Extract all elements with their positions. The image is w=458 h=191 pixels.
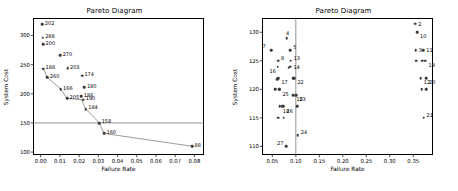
data-point: [292, 77, 295, 80]
data-point: [277, 60, 280, 63]
data-point: [191, 145, 194, 148]
y-axis-title-left: System Cost: [3, 68, 9, 104]
plot-area-left: [33, 18, 204, 155]
data-point-label: 200: [46, 40, 56, 46]
y-tick-label: 250: [15, 62, 30, 68]
y-tick-label: 125: [244, 58, 259, 64]
x-tick-label: 0.05: [131, 158, 143, 164]
data-point: [103, 132, 106, 135]
data-point-label: 10: [420, 33, 426, 39]
data-point: [296, 134, 299, 137]
data-point: [295, 94, 298, 97]
x-axis-title-left: Failure Rate: [101, 166, 135, 172]
x-tick-label: 0.01: [54, 158, 66, 164]
y-tick-label: 200: [15, 91, 30, 97]
data-point: [422, 49, 425, 52]
data-point: [270, 49, 273, 52]
data-point: [277, 117, 280, 120]
data-point-label: 160: [106, 129, 116, 135]
chart-title-right: Pareto Diagram: [229, 7, 458, 15]
x-tick-label: 0.00: [35, 158, 47, 164]
x-tick-label: 0.15: [313, 158, 325, 164]
data-point: [66, 67, 69, 70]
data-point-label: 174: [84, 71, 94, 77]
data-point: [422, 117, 425, 120]
data-point-label: 8: [281, 55, 284, 61]
y-axis-title-right: System Cost: [232, 68, 238, 104]
data-point: [416, 31, 419, 34]
data-point-label: 5: [293, 44, 296, 50]
data-point-label: 23: [299, 96, 305, 102]
data-point: [425, 88, 428, 91]
x-tick-label: 0.06: [150, 158, 162, 164]
data-point: [85, 108, 88, 111]
data-point: [42, 37, 45, 40]
data-point: [83, 86, 86, 89]
data-point: [81, 74, 84, 77]
x-tick-label: 0.04: [112, 158, 124, 164]
data-point: [414, 22, 417, 25]
data-point: [279, 88, 282, 91]
x-tick-label: 0.07: [169, 158, 181, 164]
data-point-label: 205: [70, 94, 80, 100]
data-point: [80, 95, 83, 98]
data-point: [59, 88, 62, 91]
x-tick-label: 0.05: [266, 158, 278, 164]
x-tick-label: 0.03: [92, 158, 104, 164]
y-tick-label: 120: [244, 86, 259, 92]
data-point: [82, 98, 85, 101]
x-tick-label: 0.08: [188, 158, 200, 164]
data-point: [41, 23, 44, 26]
data-point-label: 2: [418, 21, 421, 27]
data-point-label: 26: [287, 108, 293, 114]
data-point-label: 190: [86, 95, 96, 101]
y-tick-label: 115: [244, 115, 259, 121]
data-point-label: 88: [194, 142, 200, 148]
data-point: [282, 117, 285, 120]
y-tick-label: 300: [15, 32, 30, 38]
data-point-label: 180: [87, 83, 97, 89]
data-point-label: 17: [281, 79, 287, 85]
data-point: [276, 78, 279, 81]
data-point: [66, 97, 69, 100]
data-point: [59, 54, 62, 57]
x-tick-label: 0.02: [73, 158, 85, 164]
data-point-label: 188: [46, 64, 56, 70]
y-tick-label: 130: [244, 29, 259, 35]
data-point: [274, 88, 277, 91]
data-point-label: 202: [45, 20, 55, 26]
data-point-label: 13: [294, 55, 300, 61]
data-point-label: 25: [282, 91, 288, 97]
data-point-label: 260: [50, 73, 60, 79]
y-tick-label: 110: [244, 143, 259, 149]
data-point: [276, 65, 279, 68]
data-point: [289, 49, 292, 52]
y-tick-label: 100: [15, 149, 30, 155]
data-point: [414, 49, 417, 52]
data-point: [425, 77, 428, 80]
data-point: [420, 88, 423, 91]
data-point-label: 27: [277, 140, 283, 146]
data-point: [415, 60, 418, 63]
data-point: [286, 37, 289, 40]
chart-panel-left: Pareto Diagram 0.000.010.020.030.040.050…: [0, 0, 229, 191]
data-point: [421, 60, 424, 63]
data-point-label: 21: [427, 112, 433, 118]
x-tick-label: 0.30: [384, 158, 396, 164]
data-point-label: 166: [63, 85, 73, 91]
data-point: [98, 122, 101, 125]
data-point: [289, 60, 292, 63]
chart-title-left: Pareto Diagram: [0, 7, 229, 15]
data-point: [424, 60, 427, 63]
data-point-label: 22: [297, 79, 303, 85]
data-point-label: 270: [63, 51, 73, 57]
data-point: [296, 105, 299, 108]
x-axis-title-right: Failure Rate: [330, 166, 364, 172]
data-point-label: 184: [88, 104, 98, 110]
chart-panel-right: Pareto Diagram 0.050.100.150.200.250.300…: [229, 0, 458, 191]
x-tick-label: 0.10: [290, 158, 302, 164]
data-point: [287, 66, 290, 69]
data-point-label: 288: [45, 33, 55, 39]
data-point-label: 7: [262, 43, 265, 49]
data-point: [419, 77, 422, 80]
